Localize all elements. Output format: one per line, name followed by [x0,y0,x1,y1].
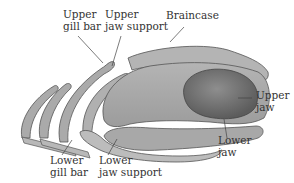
label-braincase: Braincase [166,9,219,21]
label-lower-jaw-support: Lower jaw support [99,154,162,178]
label-upper-gill-bar: Upper gill bar [63,8,101,32]
label-upper-jaw: Upper jaw [256,89,290,113]
label-upper-jaw-support: Upper jaw support [105,8,168,32]
label-lower-jaw: Lower jaw [218,134,252,158]
label-lower-gill-bar: Lower gill bar [50,154,88,178]
jaw-evolution-diagram: Upper gill bar Upper jaw support Brainca… [0,0,294,183]
